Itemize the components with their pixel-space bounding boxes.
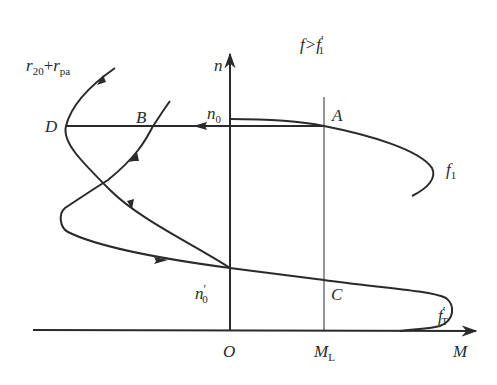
origin-label: O	[223, 343, 235, 360]
point-d-label: D	[45, 118, 57, 135]
ft-prime-curve-label: f′T	[438, 305, 448, 327]
point-a-label: A	[332, 107, 342, 124]
n0-label: n0	[207, 105, 221, 125]
n0-prime-label: n′0	[195, 283, 208, 305]
motor-braking-diagram	[0, 0, 497, 385]
arrow-down-icon	[129, 152, 139, 162]
n-axis-label: n	[214, 57, 223, 74]
point-c-label: C	[331, 286, 342, 303]
resistance-curve-label: r20+rpa	[26, 57, 70, 77]
curve-resistance	[65, 68, 230, 268]
m-axis-label: M	[453, 343, 467, 360]
arrow-left-icon	[193, 122, 207, 130]
curve-f1	[230, 119, 433, 196]
f1-curve-label: f1	[446, 161, 456, 181]
point-b-label: B	[136, 109, 146, 126]
ml-label: ML	[314, 343, 335, 363]
condition-label: f>f′1	[300, 34, 324, 56]
